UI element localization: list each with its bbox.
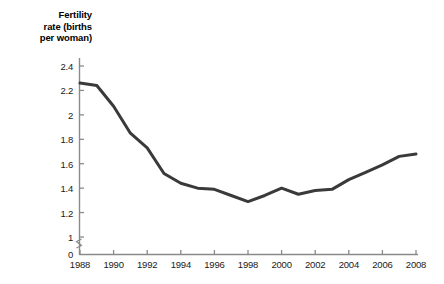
x-axis-tick-label: 1998	[238, 259, 258, 270]
x-axis-tick-label: 1988	[70, 259, 90, 270]
fertility-rate-series-line	[80, 83, 416, 201]
x-axis-tick-label: 2006	[372, 259, 392, 270]
y-axis-tick-label: 1.2	[40, 207, 73, 218]
x-axis-tick-label: 1994	[171, 259, 191, 270]
y-axis-tick-label: 1.6	[40, 158, 73, 169]
x-axis-tick-label: 2002	[305, 259, 325, 270]
x-axis-tick-label: 1996	[204, 259, 224, 270]
y-axis-tick-label: 0	[40, 249, 73, 260]
x-axis-tick-label: 2000	[271, 259, 291, 270]
y-axis-tick-label: 1.4	[40, 183, 73, 194]
y-axis-tick-label: 2	[40, 109, 73, 120]
x-axis-tick-label: 1990	[103, 259, 123, 270]
x-axis-tick-label: 2004	[339, 259, 359, 270]
y-axis-tick-label: 2.4	[40, 61, 73, 72]
axis-break-icon	[77, 239, 82, 248]
fertility-rate-line-chart: Fertility rate (births per woman) 011.21…	[0, 0, 444, 284]
x-axis-tick-label: 2008	[406, 259, 426, 270]
x-axis-tick-label: 1992	[137, 259, 157, 270]
y-axis-tick-label: 2.2	[40, 85, 73, 96]
y-axis-tick-label: 1	[40, 232, 73, 243]
page-bleed-text	[96, 275, 440, 279]
axes-group	[77, 58, 419, 255]
y-axis-tick-label: 1.8	[40, 134, 73, 145]
